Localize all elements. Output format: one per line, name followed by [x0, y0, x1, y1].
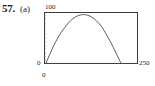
- x-axis-max-label: 250: [139, 59, 150, 67]
- part-label: (a): [20, 3, 30, 15]
- y-axis-min-label: 0: [37, 59, 41, 67]
- figure-panel: 57. (a) 100 0 0 250: [0, 0, 155, 86]
- y-axis-max-label: 100: [45, 3, 56, 11]
- x-axis-min-label: 0: [42, 71, 46, 79]
- plot-canvas: [44, 12, 138, 64]
- data-curve: [46, 15, 121, 64]
- problem-number: 57.: [2, 2, 15, 14]
- y-axis-ticks: [44, 16, 46, 61]
- chart: [44, 12, 138, 64]
